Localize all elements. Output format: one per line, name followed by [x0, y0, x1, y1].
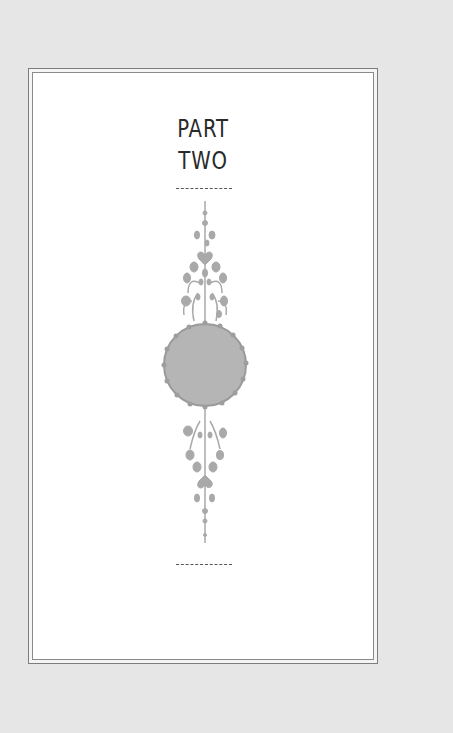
top-dashed-rule	[176, 188, 232, 189]
bottom-dashed-rule	[176, 564, 232, 565]
part-heading-line2: TWO	[63, 145, 343, 177]
part-heading-line1: PART	[63, 113, 343, 145]
floral-medallion-ornament-icon	[150, 193, 260, 561]
